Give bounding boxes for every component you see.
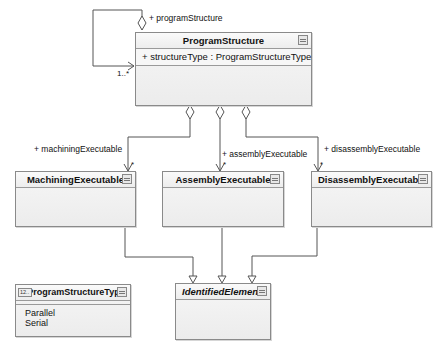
multiplicity-label: 1..* — [117, 69, 129, 78]
enum-literals: Parallel Serial — [16, 305, 130, 328]
class-name: IdentifiedElement — [182, 286, 261, 297]
multiplicity-label: * — [131, 160, 134, 169]
role-label-program-structure: + programStructure — [149, 13, 222, 23]
enumeration-icon: 12.. — [18, 288, 32, 297]
class-program-structure[interactable]: ProgramStructure + structureType : Progr… — [135, 32, 312, 106]
class-icon — [122, 174, 132, 184]
class-header: IdentifiedElement — [176, 284, 270, 300]
class-machining-executable[interactable]: MachiningExecutable — [15, 171, 136, 227]
generalization-line — [252, 226, 317, 277]
generalization-triangle-icon — [248, 276, 256, 283]
class-header: AssemblyExecutable — [163, 172, 283, 188]
enum-program-structure-type[interactable]: 12.. ProgramStructureType Parallel Seria… — [15, 284, 131, 337]
class-icon — [270, 174, 280, 184]
class-name: DisassemblyExecutable — [318, 174, 426, 185]
enum-literal-parallel[interactable]: Parallel — [25, 308, 130, 318]
class-icon — [298, 35, 308, 45]
class-name: AssemblyExecutable — [175, 174, 270, 185]
aggregation-diamond-icon — [216, 105, 224, 119]
aggregation-diamond-icon — [242, 105, 250, 119]
generalization-triangle-icon — [218, 276, 226, 283]
role-label-assembly-executable: + assemblyExecutable — [222, 149, 307, 159]
role-label-machining-executable: + machiningExecutable — [34, 144, 122, 154]
class-assembly-executable[interactable]: AssemblyExecutable — [162, 171, 284, 227]
class-identified-element[interactable]: IdentifiedElement — [175, 283, 271, 340]
enum-name: ProgramStructureType — [27, 287, 124, 297]
class-name: ProgramStructure — [183, 35, 264, 46]
enum-literal-serial[interactable]: Serial — [25, 318, 130, 328]
class-header: MachiningExecutable — [16, 172, 135, 188]
aggregation-diamond-icon — [138, 16, 146, 30]
multiplicity-label: * — [223, 160, 226, 169]
aggregation-diamond-icon — [186, 105, 194, 119]
disassembly-association-line — [246, 118, 318, 171]
generalization-line — [125, 226, 193, 277]
class-header: DisassemblyExecutable — [312, 172, 431, 188]
generalization-triangle-icon — [189, 276, 197, 283]
attribute-structure-type[interactable]: + structureType : ProgramStructureType — [136, 49, 311, 66]
class-name: MachiningExecutable — [27, 174, 124, 185]
class-header: ProgramStructure — [136, 33, 311, 49]
class-disassembly-executable[interactable]: DisassemblyExecutable — [311, 171, 432, 227]
role-label-disassembly-executable: + disassemblyExecutable — [324, 144, 420, 154]
class-icon — [117, 287, 127, 297]
enum-header: 12.. ProgramStructureType — [16, 285, 130, 301]
multiplicity-label: * — [320, 160, 323, 169]
machining-association-line — [128, 118, 190, 171]
class-icon — [257, 286, 267, 296]
class-icon — [418, 174, 428, 184]
